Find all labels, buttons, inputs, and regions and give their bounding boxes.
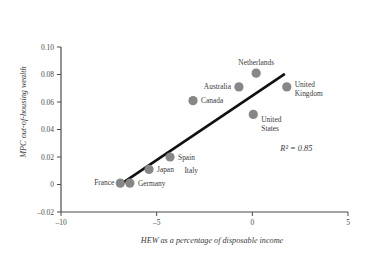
x-tick-label: –10 — [54, 218, 67, 227]
data-point-label: Netherlands — [238, 58, 274, 67]
data-point-marker — [116, 179, 125, 188]
data-point-label: Australia — [204, 82, 232, 91]
data-point-label: Germany — [138, 179, 166, 188]
y-tick-label: 0.04 — [41, 125, 54, 134]
data-point-label: Spain — [178, 153, 195, 162]
y-axis-ticks: –0.0200.020.040.060.080.10 — [36, 43, 61, 217]
data-point-marker — [252, 69, 261, 78]
x-tick-label: 0 — [250, 218, 254, 227]
data-point-marker — [188, 96, 197, 105]
chart-canvas: –0.0200.020.040.060.080.10 –10–505 Franc… — [0, 0, 368, 260]
x-tick-label: 5 — [346, 218, 350, 227]
x-tick-label: –5 — [152, 218, 161, 227]
y-tick-label: 0.08 — [41, 70, 54, 79]
annotations-group: R² = 0.85 — [279, 144, 312, 153]
data-point-marker — [249, 110, 258, 119]
data-point-label: France — [94, 178, 115, 187]
axes-group — [61, 47, 348, 212]
x-axis-title: HEW as a percentage of disposable income — [140, 236, 284, 245]
y-tick-label: 0.02 — [41, 153, 54, 162]
y-axis-title: MPC out-of-housing wealth — [19, 66, 28, 158]
y-tick-label: –0.02 — [36, 208, 54, 217]
extra-point-label: Italy — [184, 166, 198, 175]
data-point-marker — [125, 179, 134, 188]
y-tick-label: 0 — [50, 180, 54, 189]
x-axis-ticks: –10–505 — [54, 212, 350, 227]
y-tick-label: 0.06 — [41, 98, 54, 107]
data-point-marker — [165, 152, 174, 161]
data-point-label: UnitedStates — [261, 115, 281, 133]
data-points-group: FranceGermanyJapanSpainCanadaAustraliaNe… — [94, 58, 323, 188]
scatter-chart: –0.0200.020.040.060.080.10 –10–505 Franc… — [0, 0, 368, 260]
data-point-label: Japan — [157, 165, 174, 174]
r-squared-annotation: R² = 0.85 — [279, 144, 312, 153]
y-tick-label: 0.10 — [41, 43, 54, 52]
extra-labels-group: Italy — [184, 166, 198, 175]
data-point-label: UnitedKingdom — [295, 80, 323, 98]
data-point-marker — [234, 82, 243, 91]
data-point-label: Canada — [201, 96, 224, 105]
data-point-marker — [282, 82, 291, 91]
data-point-marker — [144, 165, 153, 174]
